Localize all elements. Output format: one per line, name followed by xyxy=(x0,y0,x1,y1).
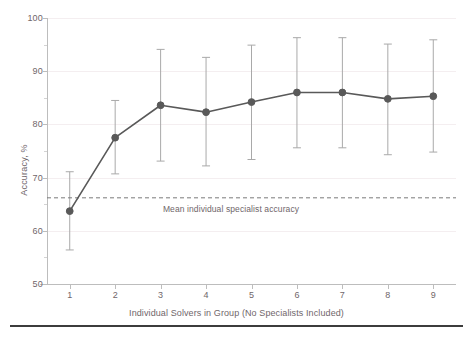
chart-figure: 5060708090100 Accuracy, % 123456789 Indi… xyxy=(0,0,473,339)
data-point-marker xyxy=(157,102,164,109)
data-point-marker xyxy=(112,134,119,141)
reference-line-label: Mean individual specialist accuracy xyxy=(163,204,299,214)
data-point-marker xyxy=(66,208,73,215)
data-point-marker xyxy=(339,89,346,96)
data-point-marker xyxy=(430,93,437,100)
data-point-marker xyxy=(294,89,301,96)
data-point-marker xyxy=(384,95,391,102)
bottom-rule-divider xyxy=(10,325,463,327)
data-point-marker xyxy=(248,99,255,106)
data-point-marker xyxy=(203,109,210,116)
data-series-layer xyxy=(0,0,473,339)
